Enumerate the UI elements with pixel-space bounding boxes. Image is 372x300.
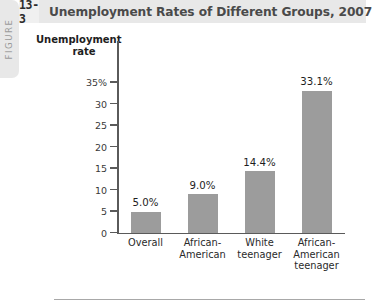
x-category-label: Overall (128, 237, 163, 249)
y-tick-label: 35% (45, 77, 107, 88)
y-tick-mark (110, 232, 117, 233)
y-tick-label: 5 (45, 206, 107, 217)
figure-header: 13-3 Unemployment Rates of Different Gro… (19, 0, 366, 23)
bar (188, 194, 218, 233)
figure-tab: FIGURE (0, 0, 19, 78)
y-tick-mark (110, 124, 117, 125)
x-category-label-line: teenager (237, 249, 281, 261)
x-category-label-line: African- (179, 237, 226, 249)
x-category-label-line: American (179, 249, 226, 261)
x-category-label-line: teenager (293, 260, 340, 272)
figure-tab-label: FIGURE (0, 0, 19, 78)
y-tick-label: 0 (45, 227, 107, 238)
x-category-label-line: African- (293, 237, 340, 249)
y-axis-tick-labels: 05101520253035% (41, 23, 107, 292)
y-tick-mark (110, 189, 117, 190)
bar-chart: Unemployment rate 05101520253035% 5.0%9.… (19, 23, 366, 292)
y-tick-mark (110, 81, 117, 82)
figure-number: 13-3 (19, 0, 39, 26)
x-category-label-line: Overall (128, 237, 163, 249)
y-tick-mark (110, 146, 117, 147)
bar-value-label: 5.0% (133, 197, 159, 208)
bar (302, 91, 332, 233)
plot-area: 05101520253035% 5.0%9.0%14.4%33.1% Overa… (19, 23, 366, 292)
figure-title: Unemployment Rates of Different Groups, … (49, 5, 372, 19)
y-tick-label: 10 (45, 184, 107, 195)
x-category-label: African-American (179, 237, 226, 260)
x-category-label-line: White (237, 237, 281, 249)
y-tick-mark (110, 167, 117, 168)
y-tick-label: 25 (45, 120, 107, 131)
y-tick-label: 30 (45, 98, 107, 109)
x-category-label: African-Americanteenager (293, 237, 340, 272)
y-tick-mark (110, 210, 117, 211)
figure-number-box: 13-3 (19, 0, 39, 23)
bar (245, 171, 275, 233)
y-tick-label: 15 (45, 163, 107, 174)
y-tick-label: 20 (45, 141, 107, 152)
bar-value-label: 33.1% (300, 76, 332, 87)
y-axis-line (117, 41, 119, 234)
bar (131, 212, 161, 234)
bar-value-label: 9.0% (190, 180, 216, 191)
x-category-label: Whiteteenager (237, 237, 281, 260)
y-tick-mark (110, 103, 117, 104)
x-category-label-line: American (293, 249, 340, 261)
bar-value-label: 14.4% (243, 157, 275, 168)
